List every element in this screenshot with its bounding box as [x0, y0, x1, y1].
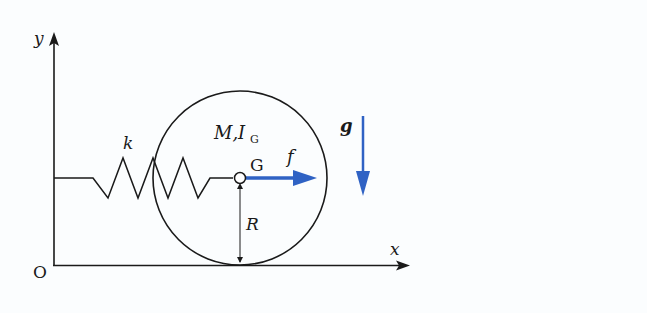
gravity-arrow	[356, 116, 370, 196]
origin-label: O	[33, 262, 47, 282]
spring	[54, 158, 233, 198]
mechanics-diagram: y x O k M, I G G f R g	[0, 0, 647, 313]
x-axis-label: x	[390, 239, 400, 259]
y-axis-label: y	[33, 28, 44, 48]
spring-constant-label: k	[123, 133, 133, 153]
center-of-mass-marker	[235, 173, 246, 184]
x-axis	[53, 261, 410, 271]
center-label: G	[250, 155, 264, 175]
inertia-label: I	[237, 122, 246, 143]
radius-label: R	[245, 214, 259, 234]
mass-label: M,	[213, 122, 238, 143]
inertia-subscript: G	[250, 133, 259, 146]
force-f-label: f	[285, 146, 297, 167]
gravity-label: g	[340, 115, 353, 136]
y-axis	[49, 32, 59, 266]
